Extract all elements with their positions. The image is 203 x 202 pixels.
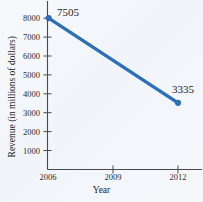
data-point-2012 xyxy=(175,100,181,106)
x-tick-label-2009: 2009 xyxy=(105,173,122,182)
x-tick-label-2012: 2012 xyxy=(170,173,187,182)
x-axis-title: Year xyxy=(0,186,203,196)
data-label-2012: 3335 xyxy=(172,84,194,95)
y-axis-title: Revenue (in millions of dollars) xyxy=(8,22,18,172)
x-tick-label-2006: 2006 xyxy=(40,173,57,182)
data-label-2006: 7505 xyxy=(57,7,79,18)
data-point-2006 xyxy=(46,15,52,21)
series-line xyxy=(49,18,178,103)
revenue-line-chart: 8000 7000 6000 5000 4000 3000 2000 1000 … xyxy=(0,0,203,202)
